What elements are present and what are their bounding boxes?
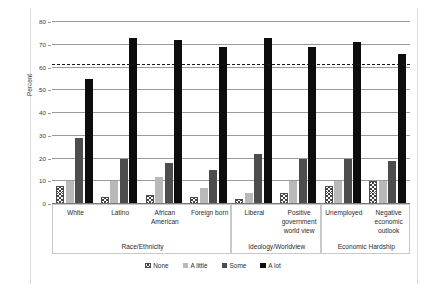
- group-box-2: UnemployedNegative economic outlookEcono…: [321, 204, 411, 254]
- y-tick-mark-20: [48, 159, 51, 160]
- bar-alot-5: [308, 47, 316, 204]
- bar-none-7: [369, 181, 377, 204]
- y-tick-30: 30: [26, 133, 46, 139]
- legend-swatch-alot-icon: [260, 263, 266, 269]
- legend-item-none[interactable]: None: [145, 262, 168, 269]
- legend-item-alot[interactable]: A lot: [260, 262, 280, 269]
- y-tick-mark-0: [48, 204, 51, 205]
- y-tick-10: 10: [26, 178, 46, 184]
- category-label-4: Liberal: [232, 208, 277, 217]
- legend-label-some: Some: [230, 262, 247, 269]
- group-box-0: WhiteLatinoAfrican AmericanForeign bornR…: [52, 204, 231, 254]
- bar-alot-4: [264, 38, 272, 204]
- bar-some-4: [254, 154, 262, 204]
- group-label-2: Economic Hardship: [322, 243, 412, 250]
- category-label-5: Positive government world view: [277, 208, 322, 235]
- y-tick-mark-10: [48, 181, 51, 182]
- category-label-0: White: [53, 208, 98, 217]
- y-tick-mark-60: [48, 68, 51, 69]
- bar-some-0: [75, 138, 83, 204]
- bar-group-4: [231, 22, 276, 204]
- category-label-3: Foreign born: [187, 208, 232, 217]
- category-label-7: Negative economic outlook: [366, 208, 411, 235]
- chart-legend: NoneA littleSomeA lot: [0, 262, 426, 269]
- bar-alittle-2: [155, 177, 163, 204]
- grouped-bar-chart: Percent 01020304050607080 WhiteLatinoAfr…: [0, 0, 426, 296]
- legend-swatch-alittle-icon: [183, 263, 189, 269]
- y-tick-70: 70: [26, 42, 46, 48]
- y-tick-20: 20: [26, 156, 46, 162]
- bar-alot-7: [398, 54, 406, 204]
- y-tick-40: 40: [26, 110, 46, 116]
- legend-label-alittle: A little: [191, 262, 208, 269]
- bar-alittle-0: [66, 181, 74, 204]
- bar-alot-3: [219, 47, 227, 204]
- legend-label-alot: A lot: [268, 262, 280, 269]
- y-tick-mark-40: [48, 113, 51, 114]
- bar-group-2: [142, 22, 187, 204]
- y-tick-mark-50: [48, 90, 51, 91]
- group-label-0: Race/Ethnicity: [53, 243, 232, 250]
- y-tick-mark-80: [48, 22, 51, 23]
- bar-alot-0: [85, 79, 93, 204]
- bar-some-6: [344, 159, 352, 205]
- group-label-1: Ideology/Worldview: [232, 243, 322, 250]
- y-tick-60: 60: [26, 65, 46, 71]
- bar-alittle-7: [379, 181, 387, 204]
- legend-item-some[interactable]: Some: [222, 262, 247, 269]
- y-tick-0: 0: [26, 201, 46, 207]
- bar-some-5: [299, 159, 307, 205]
- category-label-1: Latino: [98, 208, 143, 217]
- bar-some-1: [120, 159, 128, 205]
- bar-alittle-5: [289, 181, 297, 204]
- bar-alot-6: [353, 42, 361, 204]
- bar-alittle-1: [110, 181, 118, 204]
- bar-group-5: [276, 22, 321, 204]
- y-tick-mark-70: [48, 45, 51, 46]
- bar-some-2: [165, 163, 173, 204]
- bar-group-0: [52, 22, 97, 204]
- legend-swatch-none-icon: [145, 263, 151, 269]
- bar-alittle-3: [200, 188, 208, 204]
- bar-group-1: [97, 22, 142, 204]
- y-tick-80: 80: [26, 19, 46, 25]
- y-tick-50: 50: [26, 87, 46, 93]
- bar-none-0: [56, 186, 64, 204]
- bar-some-3: [209, 170, 217, 204]
- bar-group-7: [365, 22, 410, 204]
- group-box-1: LiberalPositive government world viewIde…: [231, 204, 321, 254]
- legend-swatch-some-icon: [222, 263, 228, 269]
- bar-group-6: [321, 22, 366, 204]
- reference-line: [52, 64, 410, 65]
- y-tick-mark-30: [48, 136, 51, 137]
- bar-group-3: [186, 22, 231, 204]
- legend-item-alittle[interactable]: A little: [183, 262, 208, 269]
- bar-alot-1: [129, 38, 137, 204]
- bar-alittle-6: [334, 181, 342, 204]
- plot-area: [52, 22, 410, 204]
- bar-some-7: [388, 161, 396, 204]
- category-label-2: African American: [143, 208, 188, 226]
- category-label-6: Unemployed: [322, 208, 367, 217]
- bar-none-6: [325, 186, 333, 204]
- legend-label-none: None: [153, 262, 168, 269]
